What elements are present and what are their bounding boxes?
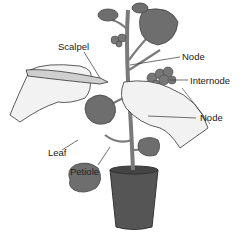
- pot: [110, 166, 158, 230]
- label-node-top: Node: [182, 52, 205, 62]
- label-internode: Internode: [190, 76, 230, 86]
- label-petiole: Petiole: [70, 167, 99, 177]
- label-scalpel: Scalpel: [58, 42, 89, 52]
- leaf-mid: [85, 95, 116, 124]
- label-node-bottom: Node: [200, 113, 223, 123]
- right-hand: [121, 81, 210, 148]
- label-leaf: Leaf: [48, 148, 67, 158]
